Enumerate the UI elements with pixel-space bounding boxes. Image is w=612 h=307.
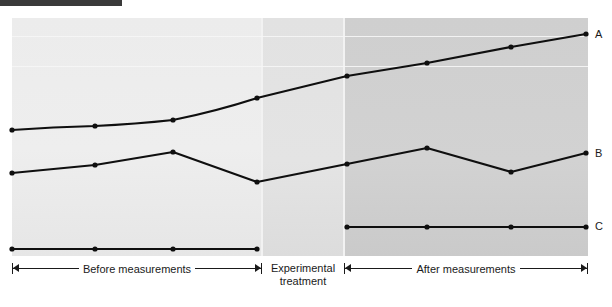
series-b-line [12, 148, 586, 182]
annotation-arrowhead-before-right [255, 264, 261, 272]
plot-area [12, 18, 588, 256]
annotation-caption-before: Before measurements [79, 263, 195, 275]
figure-root: A B C Before measurements Experimental t… [0, 0, 612, 307]
annotation-arrowhead-after-left [345, 264, 351, 272]
annotation-caption-treatment-line1: Experimental [262, 262, 344, 275]
series-a-points [9, 31, 588, 132]
series-label-b: B [595, 148, 602, 159]
series-lines-svg [12, 18, 588, 256]
annotation-experimental-treatment: Experimental treatment [262, 262, 344, 288]
series-b-group [9, 145, 588, 184]
series-label-a: A [595, 29, 602, 40]
series-c-group [9, 224, 588, 251]
annotation-caption-treatment-line2: treatment [262, 275, 344, 288]
series-a-group [9, 31, 588, 132]
annotation-arrowhead-after-right [581, 264, 587, 272]
annotation-bar-after [344, 268, 588, 269]
annotation-before-measurements: Before measurements [12, 262, 262, 276]
annotation-caption-before-wrap: Before measurements [12, 262, 262, 276]
series-b-points [9, 145, 588, 184]
annotation-caption-after-wrap: After measurements [344, 262, 588, 276]
annotation-after-measurements: After measurements [344, 262, 588, 276]
annotation-arrowhead-before-left [13, 264, 19, 272]
series-c-points [9, 224, 588, 251]
series-a-line [12, 34, 586, 130]
annotation-caption-after: After measurements [412, 263, 519, 275]
top-rule-decoration [0, 0, 122, 6]
annotation-tick-after-right [587, 263, 588, 274]
series-label-c: C [595, 221, 603, 232]
annotation-bar-before [12, 268, 262, 269]
phase-annotations: Before measurements Experimental treatme… [0, 262, 612, 307]
